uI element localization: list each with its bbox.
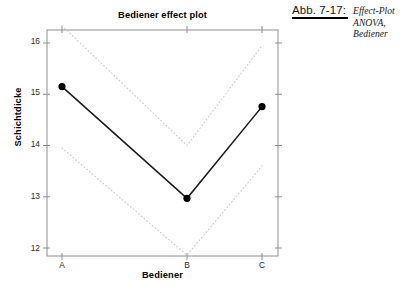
effect-line [62,87,262,199]
effect-plot-chart: Bediener effect plot Schichtdicke Bedien… [0,0,300,286]
upper-confidence-band [62,26,262,146]
lower-confidence-band [62,148,262,255]
data-point-c [258,103,265,110]
figure-caption-text: Effect-Plot ANOVA, Bediener [353,5,395,40]
data-point-a [58,83,65,90]
caption-underline-rule [292,17,348,19]
y-tick-marks [43,43,282,248]
figure-number: Abb. 7-17: [292,4,346,17]
data-point-b [183,195,190,202]
figure-caption: Abb. 7-17: Effect-Plot ANOVA, Bediener [292,4,401,40]
plot-canvas [0,0,300,286]
plot-frame [47,30,278,256]
figure-number-wrap: Abb. 7-17: [292,4,346,19]
